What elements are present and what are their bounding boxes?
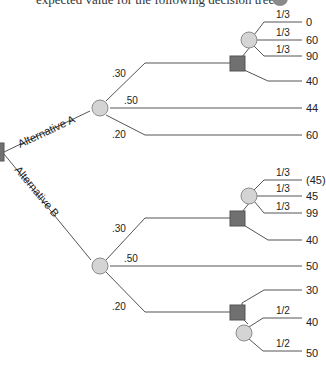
prob-b1-c3: 1/3	[276, 201, 290, 212]
payoff-a-c2: 60	[306, 34, 318, 46]
prob-b1-c2: 1/3	[276, 183, 290, 194]
chance-node-b2-sub	[236, 325, 252, 341]
payoff-b-50: 50	[306, 260, 318, 272]
prob-a-30: .30	[112, 68, 126, 79]
payoff-b1-dec-40: 40	[306, 234, 318, 246]
chance-node-b	[92, 258, 108, 274]
decision-node-a	[230, 56, 245, 71]
edge-b2-c1	[249, 318, 302, 327]
prob-b-50: .50	[124, 253, 138, 264]
edge-b2-dec-30	[242, 290, 302, 306]
chance-node-a	[92, 100, 108, 116]
prob-b2-c1: 1/2	[276, 305, 290, 316]
prob-a-20: .20	[112, 129, 126, 140]
edge-a-dec-40	[242, 69, 302, 81]
decision-node-b2	[230, 305, 245, 320]
label-alternative-b: Alternative B	[12, 164, 61, 219]
prob-a-c2: 1/3	[276, 27, 290, 38]
payoff-a-c3: 90	[306, 50, 318, 62]
label-alternative-a: Alternative A	[16, 113, 78, 150]
edge-a-20	[106, 115, 302, 135]
prob-b-20: .20	[112, 301, 126, 312]
payoff-a-dec-40: 40	[306, 75, 318, 87]
decision-tree: Alternative A Alternative B .30 .50 .20 …	[0, 0, 326, 368]
payoff-a-50: 44	[306, 102, 318, 114]
prob-a-50: .50	[124, 95, 138, 106]
prob-a-c1: 1/3	[276, 9, 290, 20]
payoff-a-c1: 0	[306, 16, 312, 28]
chance-node-b1-sub	[241, 188, 257, 204]
prob-b2-c2: 1/2	[276, 338, 290, 349]
decision-node-b1	[230, 211, 245, 226]
payoff-b2-c1: 40	[306, 316, 318, 328]
payoff-b1-c2: 45	[306, 190, 318, 202]
payoff-b1-c1: (45)	[306, 174, 326, 186]
root-decision-node	[0, 143, 4, 161]
prob-b1-c1: 1/3	[276, 167, 290, 178]
payoff-a-20: 60	[306, 129, 318, 141]
payoff-b2-dec-30: 30	[306, 284, 318, 296]
payoff-b2-c2: 50	[306, 347, 318, 359]
prob-b-30: .30	[112, 223, 126, 234]
edge-b-dec-40	[242, 224, 302, 240]
chance-node-a-sub	[241, 32, 257, 48]
prob-a-c3: 1/3	[276, 44, 290, 55]
payoff-b1-c3: 99	[306, 207, 318, 219]
